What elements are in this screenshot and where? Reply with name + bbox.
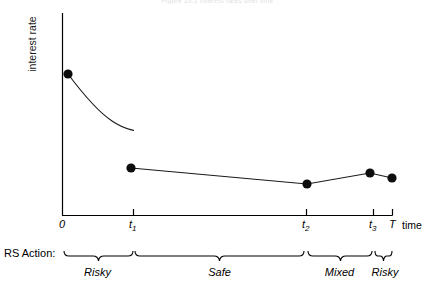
regime-label-mixed: Mixed bbox=[306, 266, 373, 278]
regime-label-risky-1: Risky bbox=[62, 266, 133, 278]
series-decaying-rate-curve bbox=[68, 74, 134, 131]
x-tick-label-t3: t3 bbox=[369, 218, 377, 233]
data-point-t3 bbox=[365, 168, 374, 177]
data-point-t0 bbox=[63, 69, 72, 78]
x-tick-label-t1: t1 bbox=[129, 218, 137, 233]
brace-safe bbox=[135, 251, 304, 261]
rs-action-label: RS Action: bbox=[4, 247, 55, 259]
data-point-T bbox=[387, 173, 396, 182]
brace-risky-1 bbox=[64, 251, 133, 261]
data-point-t2 bbox=[302, 179, 311, 188]
regime-label-risky-2: Risky bbox=[365, 266, 405, 278]
x-axis-ticks bbox=[134, 209, 393, 216]
x-tick-subscript-t1: 1 bbox=[132, 224, 136, 233]
x-tick-label-t2: t2 bbox=[302, 218, 310, 233]
data-point-markers bbox=[63, 69, 396, 188]
figure-container: Figure 10.1 Interest rates over time int… bbox=[0, 0, 435, 291]
data-point-t1 bbox=[126, 163, 135, 172]
chart-canvas bbox=[0, 0, 435, 291]
regime-label-safe: Safe bbox=[133, 266, 306, 278]
x-axis-label: time bbox=[402, 219, 422, 231]
brace-risky-2 bbox=[375, 251, 392, 261]
x-tick-subscript-t3: 3 bbox=[372, 224, 376, 233]
x-tick-label-T: T bbox=[389, 218, 396, 230]
regime-braces bbox=[64, 251, 392, 261]
x-tick-label-origin: 0 bbox=[59, 218, 65, 230]
x-tick-subscript-t2: 2 bbox=[305, 224, 309, 233]
series-piecewise-rate-line bbox=[131, 168, 392, 184]
brace-mixed bbox=[308, 251, 372, 261]
